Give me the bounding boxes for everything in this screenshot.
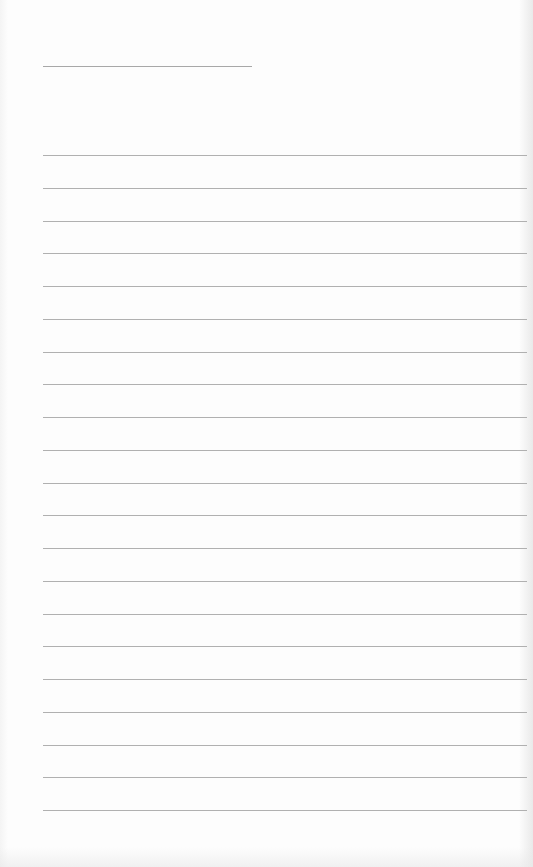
- ruled-line: [43, 679, 527, 680]
- ruled-line: [43, 581, 527, 582]
- ruled-line: [43, 712, 527, 713]
- ruled-line: [43, 515, 527, 516]
- bottom-edge-shadow: [0, 847, 533, 867]
- ruled-line: [43, 483, 527, 484]
- ruled-line: [43, 384, 527, 385]
- ruled-line: [43, 319, 527, 320]
- ruled-line: [43, 286, 527, 287]
- ruled-line: [43, 221, 527, 222]
- ruled-line: [43, 614, 527, 615]
- ruled-line: [43, 745, 527, 746]
- ruled-line: [43, 548, 527, 549]
- ruled-line: [43, 810, 527, 811]
- ruled-line: [43, 188, 527, 189]
- ruled-line: [43, 352, 527, 353]
- ruled-line: [43, 417, 527, 418]
- ruled-line: [43, 450, 527, 451]
- ruled-line: [43, 253, 527, 254]
- ruled-line: [43, 646, 527, 647]
- ruled-line: [43, 155, 527, 156]
- title-line: [43, 66, 252, 67]
- ruled-line: [43, 777, 527, 778]
- right-edge-shadow: [519, 0, 533, 867]
- left-edge-shadow: [0, 0, 8, 867]
- lined-paper-page: [0, 0, 533, 867]
